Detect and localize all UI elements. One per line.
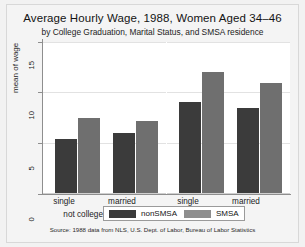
plot-area	[43, 42, 290, 194]
chart-source-note: Source: 1988 data from NLS, U.S. Dept. o…	[7, 226, 298, 233]
legend-swatch-nonsmsa	[109, 210, 136, 218]
y-tick-label-10: 10	[27, 94, 36, 120]
bar-nonsmsa-college-married	[237, 108, 259, 193]
chart-legend: nonSMSA SMSA	[103, 206, 245, 221]
y-tick-5	[38, 143, 42, 144]
chart-figure: Average Hourly Wage, 1988, Women Aged 34…	[6, 4, 299, 243]
bar-nonsmsa-notcollege-single	[55, 139, 77, 193]
legend-swatch-smsa	[184, 210, 211, 218]
x-label-notcollege-single: single	[38, 197, 90, 206]
y-tick-label-5: 5	[27, 145, 36, 171]
legend-label-smsa: SMSA	[216, 209, 239, 218]
bar-smsa-notcollege-married	[136, 121, 158, 193]
y-tick-label-15: 15	[27, 44, 36, 70]
y-axis-label: mean of wage	[11, 43, 20, 93]
x-label-college-single: single	[162, 197, 214, 206]
x-label-college-married: married	[220, 197, 272, 206]
y-tick-0	[38, 194, 42, 195]
bar-smsa-notcollege-single	[78, 118, 100, 193]
bar-smsa-college-married	[260, 83, 282, 193]
y-tick-10	[38, 92, 42, 93]
chart-subtitle: by College Graduation, Marital Status, a…	[7, 27, 298, 37]
x-label-notcollege-married: married	[96, 197, 148, 206]
y-tick-15	[38, 42, 42, 43]
panel-separator	[166, 42, 167, 194]
legend-label-nonsmsa: nonSMSA	[141, 209, 177, 218]
y-tick-label-0: 0	[27, 196, 36, 222]
y-axis-line	[42, 39, 43, 195]
bar-nonsmsa-college-single	[179, 102, 201, 193]
x-axis-line	[42, 194, 291, 195]
bar-smsa-college-single	[202, 72, 224, 193]
legend-item-smsa[interactable]: SMSA	[184, 209, 239, 218]
bar-nonsmsa-notcollege-married	[113, 133, 135, 193]
legend-item-nonsmsa[interactable]: nonSMSA	[109, 209, 177, 218]
chart-title: Average Hourly Wage, 1988, Women Aged 34…	[7, 12, 298, 24]
